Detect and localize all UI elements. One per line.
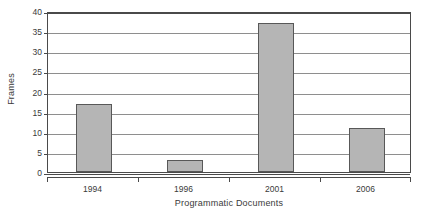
bar[interactable] bbox=[167, 160, 203, 172]
x-axis-tick-mark bbox=[47, 177, 48, 182]
x-axis-tick-mark bbox=[320, 177, 321, 182]
x-axis-title: Programmatic Documents bbox=[47, 198, 411, 208]
gridline bbox=[48, 174, 410, 175]
y-axis-tick-mark bbox=[44, 114, 48, 115]
y-axis-tick-mark bbox=[44, 33, 48, 34]
y-axis-tick-labels: 0510152025303540 bbox=[20, 12, 42, 173]
y-axis-tick-label: 0 bbox=[37, 168, 42, 178]
plot-area bbox=[47, 12, 411, 173]
x-axis-tick-mark bbox=[229, 177, 230, 182]
x-axis-tick-labels: 1994199620012006 bbox=[47, 184, 411, 198]
bar-slot bbox=[230, 13, 321, 172]
y-axis-tick-label: 35 bbox=[33, 27, 42, 37]
y-axis-title: Frames bbox=[2, 0, 20, 178]
y-axis-tick-mark bbox=[44, 53, 48, 54]
y-axis-tick-mark bbox=[44, 174, 48, 175]
bar-chart: Frames 0510152025303540 1994199620012006… bbox=[0, 0, 426, 213]
y-axis-tick-label: 5 bbox=[37, 148, 42, 158]
x-axis-tick-label: 2001 bbox=[265, 184, 284, 194]
bar-slot bbox=[139, 13, 230, 172]
bar-slot bbox=[48, 13, 139, 172]
y-axis-tick-label: 15 bbox=[33, 108, 42, 118]
y-axis-tick-label: 10 bbox=[33, 128, 42, 138]
y-axis-tick-label: 25 bbox=[33, 67, 42, 77]
y-axis-tick-mark bbox=[44, 13, 48, 14]
x-axis-tick-label: 2006 bbox=[356, 184, 375, 194]
y-axis-tick-label: 40 bbox=[33, 7, 42, 17]
y-axis-tick-mark bbox=[44, 134, 48, 135]
y-axis-tick-mark bbox=[44, 73, 48, 74]
x-axis-tick-label: 1996 bbox=[174, 184, 193, 194]
y-axis-title-label: Frames bbox=[6, 73, 16, 105]
bars-layer bbox=[48, 13, 410, 172]
bar[interactable] bbox=[258, 23, 294, 172]
y-axis-tick-mark bbox=[44, 94, 48, 95]
y-axis-tick-label: 30 bbox=[33, 47, 42, 57]
bar[interactable] bbox=[349, 128, 385, 172]
x-axis-tick-label: 1994 bbox=[83, 184, 102, 194]
y-axis-tick-label: 20 bbox=[33, 88, 42, 98]
bar-slot bbox=[321, 13, 412, 172]
x-axis-tick-mark bbox=[410, 177, 411, 182]
x-axis-tick-mark bbox=[138, 177, 139, 182]
bar[interactable] bbox=[76, 104, 112, 172]
y-axis-tick-mark bbox=[44, 154, 48, 155]
